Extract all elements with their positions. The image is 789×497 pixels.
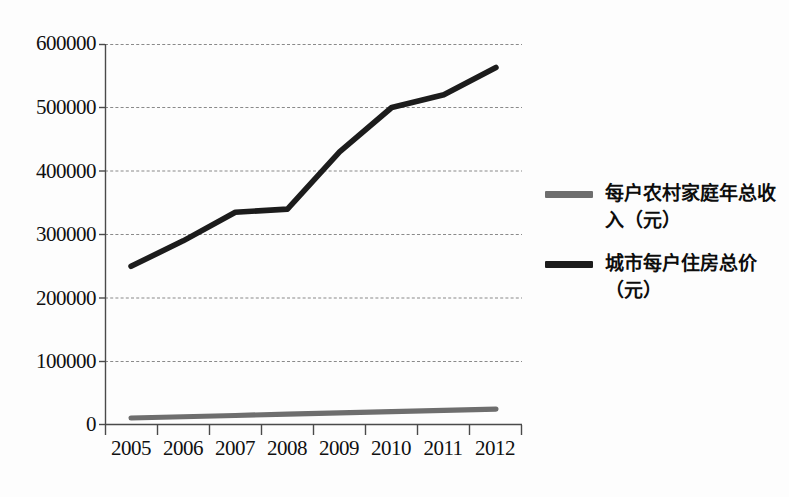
x-tick-label-2010: 2010	[365, 436, 417, 460]
y-tick-label-0: 0	[86, 414, 96, 435]
plot-area	[105, 44, 522, 425]
y-tick-label-200000: 200000	[36, 288, 96, 309]
x-tick-label-2008: 2008	[261, 436, 313, 460]
legend-item-urban-housing[interactable]: 城市每户住房总价（元）	[545, 250, 785, 304]
x-tick-label-2009: 2009	[313, 436, 365, 460]
legend-label-rural-income: 每户农村家庭年总收入（元）	[605, 180, 785, 234]
legend-label-urban-housing: 城市每户住房总价（元）	[605, 250, 785, 304]
legend-item-rural-income[interactable]: 每户农村家庭年总收入（元）	[545, 180, 785, 234]
series-line-urban-housing[interactable]	[131, 68, 496, 267]
x-tick-label-2005: 2005	[105, 436, 157, 460]
y-tick-label-100000: 100000	[36, 351, 96, 372]
x-tick-label-2012: 2012	[469, 436, 521, 460]
data-series-layer	[105, 44, 522, 425]
chart-legend: 每户农村家庭年总收入（元） 城市每户住房总价（元）	[545, 180, 785, 320]
chart-figure: 600000 500000 400000 300000 200000 10000…	[0, 0, 789, 497]
legend-line-swatch-icon	[545, 261, 593, 268]
series-line-rural-income[interactable]	[131, 409, 496, 418]
x-tick-label-2011: 2011	[417, 436, 469, 460]
y-tick-label-500000: 500000	[36, 97, 96, 118]
y-axis-tick-labels: 600000 500000 400000 300000 200000 10000…	[0, 0, 96, 497]
legend-line-swatch-icon	[545, 191, 593, 198]
x-tick-label-2006: 2006	[157, 436, 209, 460]
x-axis-tick-labels: 2005 2006 2007 2008 2009 2010 2011 2012	[105, 436, 522, 466]
y-tick-label-600000: 600000	[36, 33, 96, 54]
y-tick-label-300000: 300000	[36, 224, 96, 245]
x-tick-label-2007: 2007	[209, 436, 261, 460]
y-tick-label-400000: 400000	[36, 161, 96, 182]
